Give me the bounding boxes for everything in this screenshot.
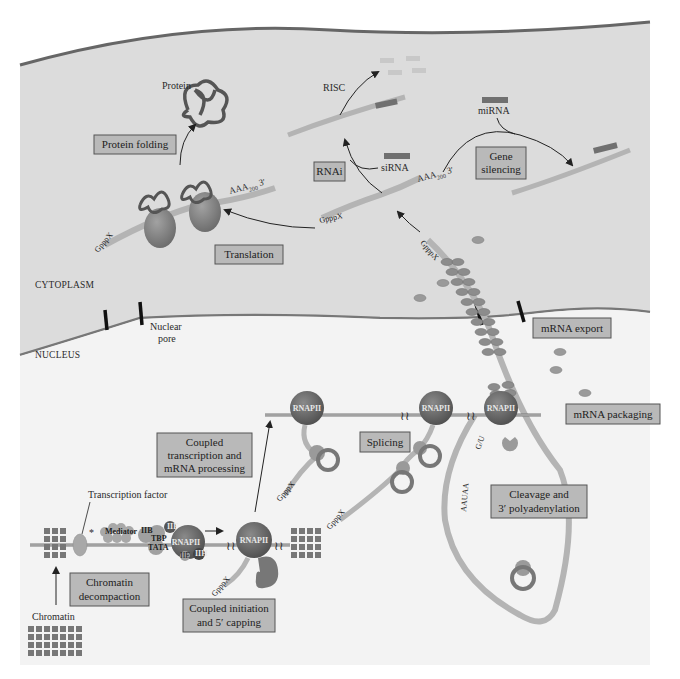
sirna-duplex (384, 153, 410, 159)
coupled-transcription-box: Coupled transcription and mRNA processin… (157, 433, 252, 477)
svg-text:RNAPII: RNAPII (172, 538, 200, 547)
rnapii-upper-3: RNAPII (484, 391, 518, 425)
svg-text:Chromatin: Chromatin (86, 576, 134, 588)
svg-text:RNAPII: RNAPII (422, 404, 450, 413)
transcription-factor (73, 534, 87, 556)
chromatin-label: Chromatin (32, 611, 75, 622)
svg-text:mRNA processing: mRNA processing (164, 462, 245, 474)
cleavage-polyadenylation-box: Cleavage and 3′ polyadenylation (491, 485, 587, 518)
svg-text:silencing: silencing (481, 163, 521, 175)
dna-break-3: ≀≀ (226, 539, 236, 553)
dna-break-2: ≀≀ (466, 409, 476, 423)
rnapii-upper-1: RNAPII (290, 391, 324, 425)
mrna-processing-diagram: CYTOPLASM NUCLEUS Nuclear pore GpppX AAA… (0, 0, 680, 679)
sirna-label: siRNA (381, 162, 410, 173)
nuclear-pore-left-2 (140, 302, 142, 325)
rnai-box: RNAi (314, 162, 345, 181)
tbp-label: TBP (151, 534, 167, 543)
svg-text:mRNA export: mRNA export (541, 322, 603, 334)
ribosome-1 (144, 208, 176, 248)
coupled-initiation-box: Coupled initiation and 5′ capping (183, 599, 275, 632)
svg-text:decompaction: decompaction (79, 590, 141, 602)
svg-text:Splicing: Splicing (367, 436, 404, 448)
cytoplasm-label: CYTOPLASM (35, 280, 95, 290)
svg-text:Protein folding: Protein folding (102, 138, 169, 150)
transcription-factor-label: Transcription factor (88, 489, 168, 500)
gene-silencing-box: Gene silencing (476, 147, 526, 179)
asterisk-label: * (89, 527, 94, 538)
tata-label: TATA (148, 543, 169, 552)
translation-box: Translation (215, 245, 283, 264)
svg-text:Gene: Gene (489, 150, 512, 162)
dna-break-4: ≀≀ (274, 539, 284, 553)
nuclear-pore-label-1: Nuclear (150, 321, 182, 332)
nucleus-label: NUCLEUS (35, 350, 80, 360)
mirna-label: miRNA (478, 105, 510, 116)
nuclear-pore-label-2: pore (158, 333, 176, 344)
protein-folding-box: Protein folding (94, 135, 176, 154)
splicing-box: Splicing (360, 432, 410, 452)
dna-break-1: ≀≀ (400, 409, 410, 423)
svg-text:RNAi: RNAi (316, 165, 342, 177)
rnapii-upper-2: RNAPII (419, 391, 453, 425)
mirna-duplex (482, 97, 508, 103)
svg-text:3′ polyadenylation: 3′ polyadenylation (498, 502, 580, 514)
svg-text:transcription and: transcription and (167, 449, 242, 461)
mediator-label: Mediator (105, 527, 137, 536)
chromatin-decompaction-box: Chromatin decompaction (70, 573, 149, 606)
rnapii-initiation: RNAPII (236, 522, 272, 558)
cytoplasm-region (20, 22, 650, 355)
iie-label: IIE (180, 551, 190, 560)
svg-text:Translation: Translation (224, 248, 274, 260)
mrna-export-box: mRNA export (533, 318, 611, 338)
nuclear-pore-left-1 (105, 310, 107, 330)
iih-label: IIH (195, 549, 208, 558)
svg-text:Coupled: Coupled (186, 436, 224, 448)
risc-label: RISC (323, 82, 346, 93)
svg-text:mRNA packaging: mRNA packaging (573, 408, 653, 420)
svg-text:and 5′ capping: and 5′ capping (197, 616, 262, 628)
protein-label: Protein (162, 80, 191, 91)
mrna-packaging-box: mRNA packaging (566, 404, 660, 424)
svg-text:Cleavage and: Cleavage and (509, 488, 569, 500)
svg-text:RNAPII: RNAPII (487, 404, 515, 413)
svg-text:Coupled initiation: Coupled initiation (189, 602, 269, 614)
svg-text:RNAPII: RNAPII (293, 404, 321, 413)
svg-text:RNAPII: RNAPII (240, 536, 268, 545)
